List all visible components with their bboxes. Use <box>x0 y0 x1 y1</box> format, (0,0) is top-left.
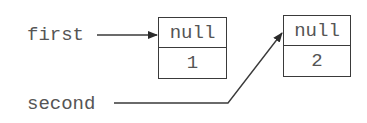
list-node-1: null 1 <box>158 17 227 79</box>
diagram-canvas: first second null 1 null 2 <box>0 0 367 123</box>
variable-label-second: second <box>27 95 95 114</box>
list-node-2: null 2 <box>283 15 351 77</box>
node-next-field: null <box>159 18 226 48</box>
variable-label-first: first <box>27 26 84 45</box>
node-next-field: null <box>284 16 350 46</box>
node-value-field: 2 <box>284 46 350 76</box>
node-value-field: 1 <box>159 48 226 78</box>
